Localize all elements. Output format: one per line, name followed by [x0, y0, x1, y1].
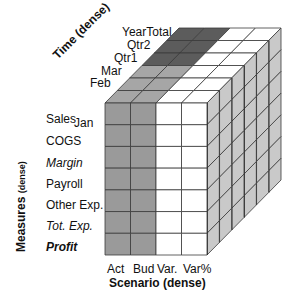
measure-cogs: COGS	[46, 134, 81, 148]
time-member-feb: Feb	[90, 76, 111, 90]
scenario-axis-title: Scenario (dense)	[109, 276, 206, 290]
front-cell	[182, 125, 208, 147]
time-member-mar: Mar	[101, 64, 122, 78]
front-cell	[156, 125, 182, 147]
time-member-jan: Jan	[74, 116, 93, 130]
measures-axis-title: Measures (dense)	[14, 161, 28, 252]
front-cell	[182, 168, 208, 190]
front-cell	[182, 212, 208, 234]
front-cell	[131, 212, 157, 234]
front-cell	[182, 233, 208, 255]
front-cell	[131, 168, 157, 190]
front-cell	[131, 233, 157, 255]
front-cell	[105, 103, 131, 125]
measure-payroll: Payroll	[46, 177, 83, 191]
front-cell	[105, 168, 131, 190]
front-cell	[131, 103, 157, 125]
front-cell	[156, 103, 182, 125]
measure-tot-exp: Tot. Exp.	[46, 219, 93, 233]
time-member-qtr2: Qtr2	[127, 38, 150, 52]
front-cell	[105, 233, 131, 255]
scenario-var-pct: Var%	[183, 262, 211, 276]
front-cell	[131, 125, 157, 147]
front-cell	[156, 168, 182, 190]
front-cell	[182, 146, 208, 168]
front-cell	[156, 212, 182, 234]
measure-sales: Sales	[46, 112, 76, 126]
front-cell	[105, 146, 131, 168]
front-cell	[182, 190, 208, 212]
front-cell	[182, 103, 208, 125]
scenario-bud: Bud	[133, 262, 154, 276]
scenario-act: Act	[107, 262, 124, 276]
front-cell	[105, 190, 131, 212]
front-cell	[131, 146, 157, 168]
time-member-qtr1: Qtr1	[114, 51, 137, 65]
front-cell	[105, 125, 131, 147]
front-cell	[156, 146, 182, 168]
time-member-yeartotal: YearTotal	[122, 25, 172, 39]
scenario-var: Var.	[157, 262, 177, 276]
measure-other-exp: Other Exp.	[46, 198, 103, 212]
measure-margin: Margin	[46, 156, 83, 170]
measure-profit: Profit	[46, 240, 77, 254]
front-cell	[156, 190, 182, 212]
measures-axis-title-text: Measures	[14, 197, 28, 252]
front-cell	[131, 190, 157, 212]
measures-axis-title-suffix: (dense)	[17, 161, 27, 193]
front-cell	[105, 212, 131, 234]
front-cell	[156, 233, 182, 255]
